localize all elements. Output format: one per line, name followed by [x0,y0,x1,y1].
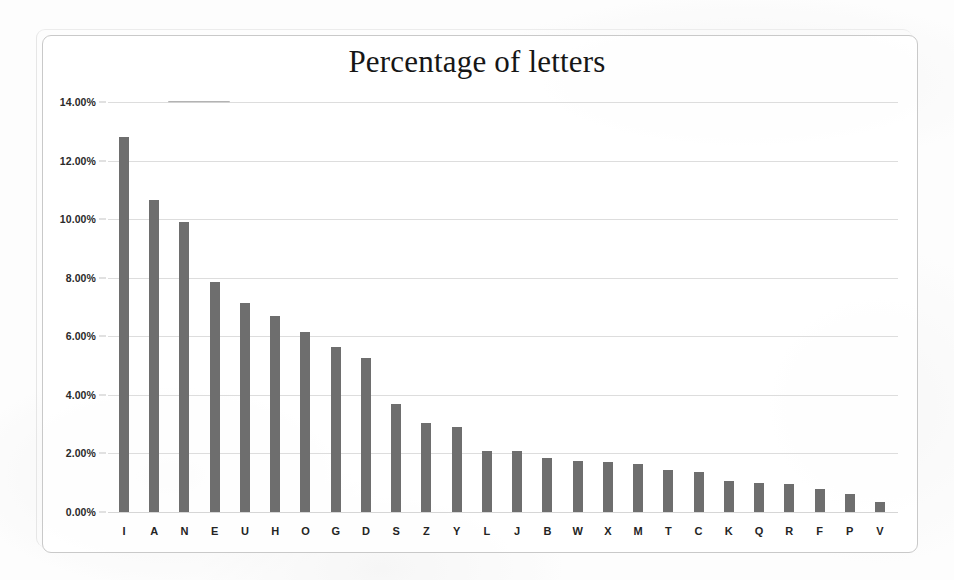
y-axis-label: 12.00% [60,155,96,167]
gridline-600 [108,336,898,337]
bar-A [149,200,159,512]
bar-L [482,451,492,513]
x-axis-label-I: I [113,525,135,537]
x-axis-label-E: E [204,525,226,537]
x-axis-label-K: K [718,525,740,537]
x-axis-label-T: T [657,525,679,537]
bar-J [512,451,522,513]
y-axis-label: 14.00% [60,96,96,108]
x-axis-label-O: O [294,525,316,537]
x-axis-label-B: B [536,525,558,537]
y-axis-tick-mark [99,336,106,337]
x-axis-label-J: J [506,525,528,537]
x-axis-label-F: F [809,525,831,537]
bar-Y [452,427,462,512]
bar-V [875,502,885,512]
gridline-400 [108,395,898,396]
gridline-1000 [108,219,898,220]
y-axis-label: 2.00% [66,447,96,459]
y-axis-tick-mark [99,394,106,395]
x-axis-label-Z: Z [415,525,437,537]
bar-S [391,404,401,512]
bar-O [300,332,310,512]
y-axis-label: 8.00% [66,272,96,284]
y-axis-label: 4.00% [66,389,96,401]
y-axis-label: 0.00% [66,506,96,518]
y-axis-tick-mark [99,277,106,278]
bar-M [633,464,643,512]
gridline-1200 [108,161,898,162]
bar-N [179,222,189,512]
y-axis-tick-mark [99,219,106,220]
bar-U [240,303,250,512]
bar-B [542,458,552,512]
x-axis-label-M: M [627,525,649,537]
bar-K [724,481,734,512]
bar-I [119,137,129,512]
y-axis-label: 6.00% [66,330,96,342]
bar-Q [754,483,764,512]
x-axis-label-P: P [839,525,861,537]
x-axis-label-C: C [688,525,710,537]
gridline-1400 [108,102,898,103]
gridline-000 [108,512,898,513]
x-axis-label-D: D [355,525,377,537]
gridline-200 [108,453,898,454]
bar-X [603,462,613,512]
chart-title: Percentage of letters [0,44,954,80]
bar-F [815,489,825,512]
x-axis-label-W: W [567,525,589,537]
x-axis-label-S: S [385,525,407,537]
bar-T [663,470,673,512]
bar-W [573,461,583,512]
bar-P [845,494,855,512]
y-axis-tick-mark [99,160,106,161]
bar-H [270,316,280,512]
x-axis-label-U: U [234,525,256,537]
bar-D [361,358,371,512]
x-axis-label-L: L [476,525,498,537]
bar-G [331,347,341,512]
x-axis-label-G: G [325,525,347,537]
bar-R [784,484,794,512]
x-axis-label-Q: Q [748,525,770,537]
bar-Z [421,423,431,512]
bar-E [210,282,220,512]
x-axis-label-R: R [778,525,800,537]
plot-area: 0.00%2.00%4.00%6.00%8.00%10.00%12.00%14.… [108,102,898,512]
x-axis-label-H: H [264,525,286,537]
y-axis-tick-mark [99,102,106,103]
gridline-800 [108,278,898,279]
x-axis-label-V: V [869,525,891,537]
x-axis-label-A: A [143,525,165,537]
x-axis-label-Y: Y [446,525,468,537]
bar-C [694,472,704,512]
y-axis-tick-mark [99,453,106,454]
y-axis-tick-mark [99,512,106,513]
x-axis-label-X: X [597,525,619,537]
y-axis-label: 10.00% [60,213,96,225]
x-axis-label-N: N [173,525,195,537]
